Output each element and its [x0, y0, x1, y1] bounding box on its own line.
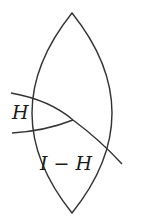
lens-diagram: H I − H — [0, 0, 143, 221]
label-i-minus-h: I − H — [39, 152, 93, 174]
label-h: H — [11, 101, 29, 123]
lens-outline — [32, 13, 112, 213]
